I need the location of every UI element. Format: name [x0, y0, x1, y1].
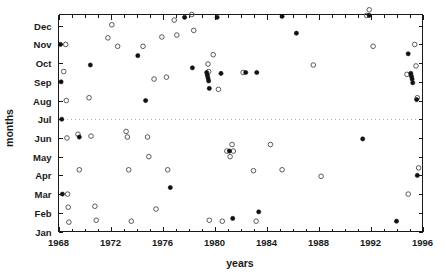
y-tick-label-apr: Apr: [35, 170, 52, 181]
y-axis-title: months: [3, 109, 15, 147]
data-point-filled-circle: [244, 70, 248, 74]
x-tick-label-1972: 1972: [100, 237, 121, 248]
y-tick-label-aug: Aug: [33, 96, 52, 107]
chart-background: [0, 0, 446, 276]
y-tick-label-feb: Feb: [35, 208, 52, 219]
x-tick-label-1980: 1980: [204, 237, 225, 248]
data-point-filled-circle: [136, 54, 140, 58]
y-tick-label-jul: Jul: [38, 114, 52, 125]
y-tick-label-nov: Nov: [34, 39, 53, 50]
y-tick-label-may: May: [33, 152, 52, 163]
data-point-filled-circle: [207, 86, 211, 90]
x-tick-label-1988: 1988: [308, 237, 329, 248]
data-point-filled-circle: [280, 14, 284, 18]
x-tick-label-1968: 1968: [48, 237, 69, 248]
data-point-filled-circle: [215, 15, 219, 19]
x-tick-label-1976: 1976: [152, 237, 173, 248]
data-point-filled-circle: [59, 80, 63, 84]
y-tick-label-mar: Mar: [35, 189, 52, 200]
data-point-filled-circle: [219, 71, 223, 75]
data-point-filled-circle: [367, 13, 371, 17]
data-point-filled-circle: [183, 15, 187, 19]
x-axis-title: years: [226, 257, 254, 269]
data-point-filled-circle: [415, 98, 419, 102]
data-point-filled-circle: [207, 79, 211, 83]
x-tick-label-1992: 1992: [360, 237, 381, 248]
x-tick-label-1996: 1996: [412, 237, 433, 248]
data-point-filled-circle: [60, 192, 64, 196]
y-tick-label-jun: Jun: [35, 133, 52, 144]
data-point-filled-circle: [168, 185, 172, 189]
data-point-filled-circle: [361, 137, 365, 141]
data-point-filled-circle: [77, 135, 81, 139]
scatter-plot-figure: JanFebMarAprMayJunJulAugSepOctNovDec 196…: [0, 0, 446, 276]
data-point-filled-circle: [394, 219, 398, 223]
data-point-filled-circle: [144, 98, 148, 102]
data-point-filled-circle: [406, 52, 410, 56]
data-point-filled-circle: [227, 149, 231, 153]
data-point-filled-circle: [231, 216, 235, 220]
data-point-filled-circle: [190, 66, 194, 70]
data-point-filled-circle: [88, 63, 92, 67]
y-tick-label-oct: Oct: [36, 58, 53, 69]
data-point-filled-circle: [60, 117, 64, 121]
x-tick-label-1984: 1984: [256, 237, 278, 248]
data-point-filled-circle: [58, 42, 62, 46]
data-point-filled-circle: [415, 173, 419, 177]
y-tick-label-dec: Dec: [34, 21, 51, 32]
data-point-filled-circle: [255, 70, 259, 74]
data-point-filled-circle: [411, 81, 415, 85]
data-point-filled-circle: [294, 31, 298, 35]
chart-canvas: JanFebMarAprMayJunJulAugSepOctNovDec 196…: [0, 0, 446, 276]
data-point-filled-circle: [257, 210, 261, 214]
y-tick-label-sep: Sep: [34, 77, 52, 88]
